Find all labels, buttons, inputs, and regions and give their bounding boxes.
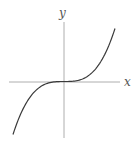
x-axis-label: x: [124, 75, 131, 89]
cubic-function-plot: x y: [0, 0, 138, 147]
y-axis-label: y: [58, 6, 66, 20]
